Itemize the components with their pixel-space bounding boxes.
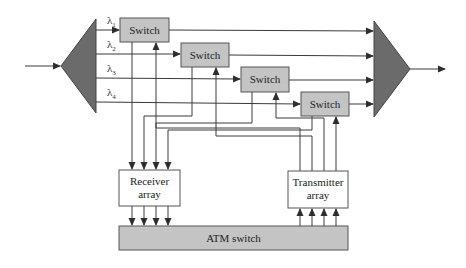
demultiplexer (61, 19, 96, 113)
transmitter-label-line1: Transmitter (293, 176, 344, 188)
add-drop-multiplexer-diagram: Switch Switch Switch Switch λ1 λ2 λ3 λ4 … (0, 0, 466, 268)
svg-text:λ2: λ2 (107, 38, 116, 53)
switch-2: Switch (181, 43, 229, 67)
switch-3-label: Switch (250, 73, 281, 85)
receiver-array: Receiver array (119, 170, 180, 206)
svg-text:λ3: λ3 (107, 62, 116, 77)
atm-switch: ATM switch (119, 226, 348, 250)
transmitter-array: Transmitter array (288, 171, 348, 208)
switch-4-label: Switch (310, 98, 341, 110)
switch-1: Switch (120, 18, 169, 42)
switch-1-label: Switch (129, 24, 160, 36)
receiver-label-line1: Receiver (130, 175, 169, 187)
transmitter-label-line2: array (307, 189, 330, 201)
svg-text:λ4: λ4 (107, 86, 116, 101)
multiplexer (374, 21, 410, 117)
atm-switch-label: ATM switch (206, 232, 261, 244)
switch-4: Switch (301, 92, 349, 116)
svg-text:λ1: λ1 (107, 14, 116, 29)
switch-2-label: Switch (190, 49, 221, 61)
wavelength-labels: λ1 λ2 λ3 λ4 (107, 14, 116, 101)
receiver-label-line2: array (138, 188, 161, 200)
switch-3: Switch (241, 67, 289, 92)
